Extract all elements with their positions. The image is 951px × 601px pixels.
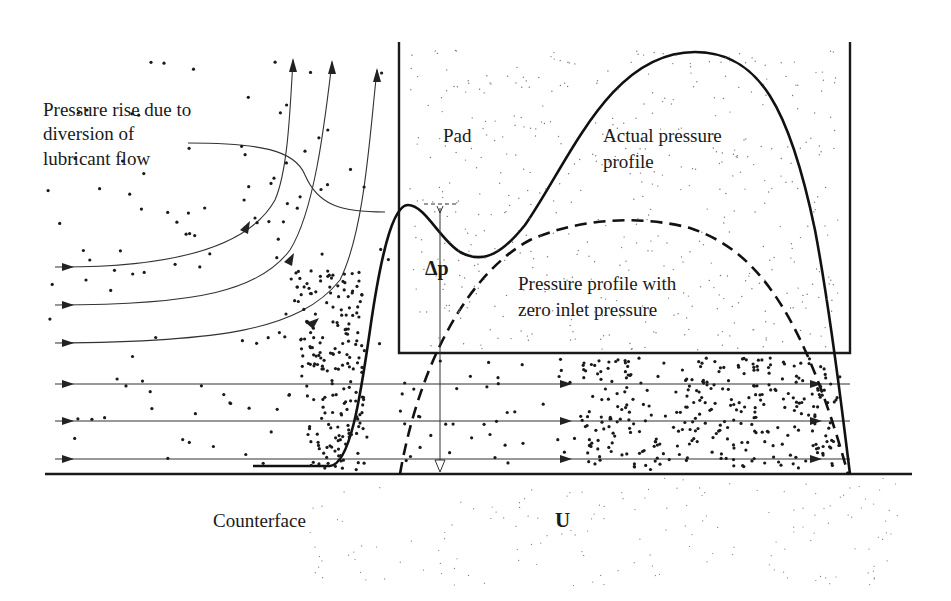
- annotation-text-line1: Pressure rise due to: [43, 98, 191, 121]
- delta-p-bottom-arrow: [435, 460, 445, 472]
- annotation-text-line3: lubricant flow: [43, 147, 150, 170]
- zero-inlet-pressure-curve: [400, 220, 848, 474]
- zero-profile-label-line1: Pressure profile with: [518, 272, 676, 295]
- velocity-label: U: [555, 509, 570, 532]
- delta-p-label: Δp: [425, 257, 449, 280]
- straight-flow-lines: [55, 384, 850, 459]
- pad-label: Pad: [443, 124, 472, 147]
- actual-pressure-curve: [253, 52, 850, 474]
- actual-profile-label-line1: Actual pressure: [603, 124, 722, 147]
- annotation-leader: [188, 143, 385, 212]
- bearing-diagram: [0, 0, 951, 601]
- actual-profile-label-line2: profile: [603, 150, 654, 173]
- counterface-label: Counterface: [213, 509, 306, 532]
- annotation-text-line2: diversion of: [43, 122, 134, 145]
- zero-profile-label-line2: zero inlet pressure: [518, 298, 657, 321]
